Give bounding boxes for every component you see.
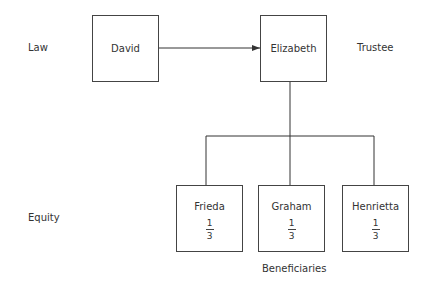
node-elizabeth: Elizabeth (260, 15, 327, 82)
node-name: Henrietta (343, 201, 408, 213)
node-name: David (93, 43, 158, 55)
equity-label: Equity (28, 212, 60, 224)
trustee-label: Trustee (357, 42, 394, 54)
node-name: Frieda (177, 201, 242, 213)
node-name: Graham (259, 201, 324, 213)
node-name: Elizabeth (261, 43, 326, 55)
node-david: David (92, 15, 159, 82)
share-fraction: 1 3 (259, 218, 324, 241)
law-label: Law (28, 42, 48, 54)
node-frieda: Frieda 1 3 (176, 185, 243, 252)
share-fraction: 1 3 (343, 218, 408, 241)
share-fraction: 1 3 (177, 218, 242, 241)
node-henrietta: Henrietta 1 3 (342, 185, 409, 252)
beneficiaries-label: Beneficiaries (262, 263, 326, 275)
node-graham: Graham 1 3 (258, 185, 325, 252)
